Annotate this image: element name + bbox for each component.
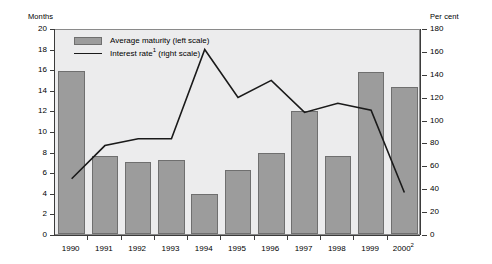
legend-label-interest-rate-suffix: (right scale) xyxy=(156,49,200,58)
left-axis-tick-10 xyxy=(50,132,55,133)
category-label-1998: 1998 xyxy=(328,244,346,253)
right-axis-tick-label-20: 20 xyxy=(430,208,439,216)
left-axis-tick-label-8: 8 xyxy=(43,149,47,157)
legend-label-average-maturity: Average maturity (left scale) xyxy=(110,36,209,45)
left-axis-tick-8 xyxy=(50,153,55,154)
right-axis-tick-label-140: 140 xyxy=(430,71,443,79)
right-axis-tick-label-120: 120 xyxy=(430,94,443,102)
bar-swatch-icon xyxy=(74,37,102,45)
left-axis-tick-label-6: 6 xyxy=(43,169,47,177)
category-label-1991: 1991 xyxy=(95,244,113,253)
right-axis-tick-80 xyxy=(422,143,427,144)
category-axis-tick-1994 xyxy=(187,236,188,240)
chart-figure: Months Per cent 02468101214161820 020406… xyxy=(0,0,492,264)
right-axis-tick-label-80: 80 xyxy=(430,139,439,147)
left-axis-tick-12 xyxy=(50,111,55,112)
left-axis-tick-label-4: 4 xyxy=(43,190,47,198)
category-label-1990: 1990 xyxy=(62,244,80,253)
category-label-1995: 1995 xyxy=(228,244,246,253)
left-axis-tick-label-0: 0 xyxy=(43,231,47,239)
left-axis-tick-16 xyxy=(50,70,55,71)
legend-label-interest-rate-text: Interest rate xyxy=(110,49,153,58)
right-axis-tick-label-60: 60 xyxy=(430,162,439,170)
category-label-1992: 1992 xyxy=(128,244,146,253)
right-axis-tick-140 xyxy=(422,75,427,76)
line-series-layer xyxy=(55,30,419,234)
left-axis-tick-20 xyxy=(50,29,55,30)
category-axis-tick-1999 xyxy=(353,236,354,240)
category-label-1999: 1999 xyxy=(361,244,379,253)
category-axis-tick-1993 xyxy=(154,236,155,240)
legend-item-average-maturity: Average maturity (left scale) xyxy=(74,34,209,47)
legend-item-interest-rate: Interest rate1 (right scale) xyxy=(74,47,209,60)
left-axis-tick-label-16: 16 xyxy=(38,66,47,74)
category-axis: 1990199119921993199419951996199719981999… xyxy=(54,235,420,236)
line-path xyxy=(72,49,405,192)
legend-label-interest-rate: Interest rate1 (right scale) xyxy=(110,49,200,58)
right-axis-tick-20 xyxy=(422,212,427,213)
left-axis-tick-label-18: 18 xyxy=(38,46,47,54)
left-axis-tick-label-10: 10 xyxy=(38,128,47,136)
category-axis-tick-1998 xyxy=(320,236,321,240)
category-axis-tick-1995 xyxy=(220,236,221,240)
right-axis-tick-label-0: 0 xyxy=(430,231,434,239)
left-axis-tick-2 xyxy=(50,214,55,215)
right-axis-tick-60 xyxy=(422,166,427,167)
left-axis-unit-label: Months xyxy=(28,12,53,21)
right-axis-tick-160 xyxy=(422,52,427,53)
left-axis-tick-label-12: 12 xyxy=(38,107,47,115)
right-axis-tick-label-40: 40 xyxy=(430,185,439,193)
right-axis-tick-0 xyxy=(422,235,427,236)
right-axis-tick-120 xyxy=(422,98,427,99)
category-label-2000: 20002 xyxy=(393,244,414,253)
interest-rate-line xyxy=(55,30,421,236)
category-label-footnote-2000: 2 xyxy=(411,242,414,248)
right-axis-tick-label-100: 100 xyxy=(430,117,443,125)
category-axis-tick-1991 xyxy=(87,236,88,240)
right-axis-tick-100 xyxy=(422,121,427,122)
left-axis-tick-6 xyxy=(50,173,55,174)
left-axis-tick-14 xyxy=(50,91,55,92)
left-axis-tick-label-14: 14 xyxy=(38,87,47,95)
left-value-axis: 02468101214161820 xyxy=(54,29,55,235)
category-label-1996: 1996 xyxy=(261,244,279,253)
line-swatch-icon xyxy=(74,53,102,54)
category-axis-tick-2000 xyxy=(387,236,388,240)
chart-legend: Average maturity (left scale) Interest r… xyxy=(74,34,209,60)
right-axis-tick-label-160: 160 xyxy=(430,48,443,56)
left-axis-tick-label-20: 20 xyxy=(38,25,47,33)
category-label-1993: 1993 xyxy=(162,244,180,253)
left-axis-tick-18 xyxy=(50,50,55,51)
right-value-axis: 020406080100120140160180 xyxy=(420,29,421,235)
category-axis-tick-1997 xyxy=(287,236,288,240)
right-axis-tick-label-180: 180 xyxy=(430,25,443,33)
category-axis-tick-1992 xyxy=(121,236,122,240)
left-axis-tick-label-2: 2 xyxy=(43,210,47,218)
left-axis-tick-4 xyxy=(50,194,55,195)
category-label-1994: 1994 xyxy=(195,244,213,253)
category-label-1997: 1997 xyxy=(295,244,313,253)
right-axis-tick-180 xyxy=(422,29,427,30)
right-axis-unit-label: Per cent xyxy=(430,12,459,21)
right-axis-tick-40 xyxy=(422,189,427,190)
category-axis-tick-1996 xyxy=(254,236,255,240)
